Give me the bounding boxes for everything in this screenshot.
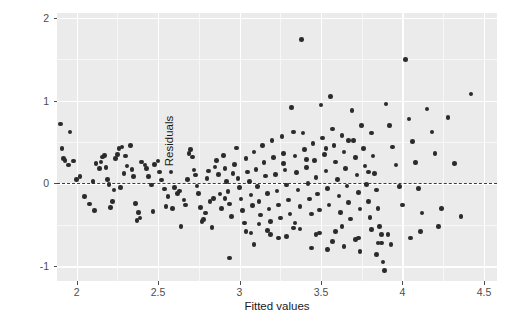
- data-point: [348, 217, 353, 222]
- data-point: [187, 151, 192, 156]
- data-point: [219, 206, 224, 211]
- gridline-minor-vertical: [199, 13, 200, 281]
- x-tick-mark: [484, 281, 485, 285]
- data-point: [381, 260, 386, 265]
- data-point: [306, 181, 311, 186]
- data-point: [343, 166, 348, 171]
- data-point: [179, 224, 184, 229]
- data-point: [257, 199, 262, 204]
- data-point: [236, 176, 241, 181]
- data-point: [281, 151, 286, 156]
- y-tick-label: 0: [43, 177, 49, 189]
- data-point: [169, 170, 174, 175]
- data-point: [384, 102, 389, 107]
- data-point: [63, 158, 68, 163]
- data-point: [333, 229, 338, 234]
- data-point: [170, 206, 175, 211]
- x-tick-mark: [402, 281, 403, 285]
- data-point: [302, 147, 307, 152]
- data-point: [94, 161, 99, 166]
- data-point: [314, 175, 319, 180]
- x-tick-label: 3: [237, 286, 243, 298]
- data-point: [144, 166, 149, 171]
- data-point: [382, 268, 387, 273]
- data-point: [110, 199, 115, 204]
- data-point: [237, 185, 242, 190]
- data-point: [353, 237, 358, 242]
- gridline-minor-horizontal: [57, 225, 497, 226]
- data-point: [355, 173, 360, 178]
- data-point: [376, 206, 381, 211]
- data-point: [439, 206, 444, 211]
- data-point: [224, 179, 229, 184]
- data-point: [244, 156, 249, 161]
- data-point: [433, 151, 438, 156]
- plot-panel: [57, 13, 497, 281]
- data-point: [226, 189, 231, 194]
- data-point: [200, 219, 205, 224]
- x-tick-label: 4: [400, 286, 406, 298]
- x-tick-mark: [321, 281, 322, 285]
- data-point: [407, 117, 412, 122]
- data-point: [366, 199, 371, 204]
- data-point: [198, 205, 203, 210]
- data-point: [240, 208, 245, 213]
- data-point: [281, 161, 286, 166]
- data-point: [223, 196, 228, 201]
- data-point: [82, 194, 87, 199]
- data-point: [87, 202, 92, 207]
- x-tick-mark: [158, 281, 159, 285]
- data-point: [182, 198, 187, 203]
- zero-reference-line: [57, 183, 497, 184]
- data-point: [278, 216, 283, 221]
- gridline-major-vertical: [484, 13, 485, 281]
- data-point: [254, 167, 259, 172]
- data-point: [120, 145, 125, 150]
- data-point: [252, 150, 257, 155]
- data-point: [112, 188, 117, 193]
- data-point: [102, 153, 107, 158]
- data-point: [206, 169, 211, 174]
- data-point: [294, 170, 299, 175]
- data-point: [105, 177, 110, 182]
- data-point: [350, 108, 355, 113]
- data-point: [346, 200, 351, 205]
- data-point: [291, 130, 296, 135]
- data-point: [193, 173, 198, 178]
- data-point: [333, 160, 338, 165]
- data-point: [205, 176, 210, 181]
- data-point: [123, 154, 128, 159]
- x-tick-mark: [77, 281, 78, 285]
- data-point: [459, 214, 464, 219]
- data-point: [252, 242, 257, 247]
- gridline-major-vertical: [402, 13, 403, 281]
- data-point: [99, 160, 104, 165]
- data-point: [151, 209, 156, 214]
- data-point: [107, 182, 112, 187]
- data-point: [340, 133, 345, 138]
- data-point: [359, 123, 364, 128]
- data-point: [288, 212, 293, 217]
- data-point: [309, 246, 314, 251]
- data-point: [229, 214, 234, 219]
- data-point: [307, 197, 312, 202]
- data-point: [317, 208, 322, 213]
- data-point: [371, 154, 376, 159]
- data-point: [131, 174, 136, 179]
- gridline-major-vertical: [321, 13, 322, 281]
- data-point: [210, 225, 215, 230]
- data-point: [361, 146, 366, 151]
- data-point: [262, 160, 267, 165]
- data-point: [247, 179, 252, 184]
- data-point: [340, 224, 345, 229]
- data-point: [304, 157, 309, 162]
- data-point: [122, 171, 127, 176]
- data-point: [425, 107, 430, 112]
- data-point: [430, 130, 435, 135]
- data-point: [286, 198, 291, 203]
- y-tick-mark: [54, 266, 58, 267]
- data-point: [299, 37, 304, 42]
- x-axis-title-label: Fitted values: [244, 300, 309, 312]
- data-point: [125, 164, 130, 169]
- x-axis-title: Fitted values: [57, 300, 497, 312]
